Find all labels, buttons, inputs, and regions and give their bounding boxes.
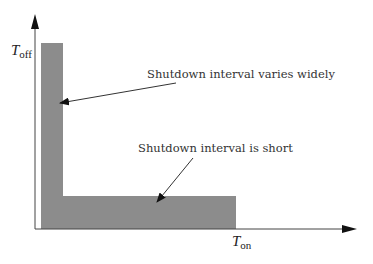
annotation-is-short-arrow	[157, 158, 193, 202]
x-axis-arrow-icon	[342, 225, 357, 233]
annotation-varies-widely: Shutdown interval varies widely	[147, 67, 335, 81]
x-axis-label: Ton	[232, 233, 252, 251]
diagram-canvas: Toff Ton Shutdown interval varies widely…	[0, 0, 373, 264]
y-axis-arrow-icon	[31, 14, 39, 29]
region-horizontal-bar	[41, 196, 236, 229]
y-axis-label: Toff	[11, 42, 32, 60]
annotation-varies-widely-arrow	[60, 83, 176, 103]
annotation-is-short: Shutdown interval is short	[138, 141, 293, 155]
